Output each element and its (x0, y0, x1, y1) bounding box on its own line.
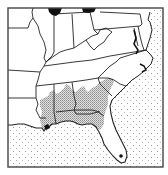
map-svg (0, 0, 168, 175)
range-map (0, 0, 168, 175)
locality-dot (119, 154, 123, 158)
